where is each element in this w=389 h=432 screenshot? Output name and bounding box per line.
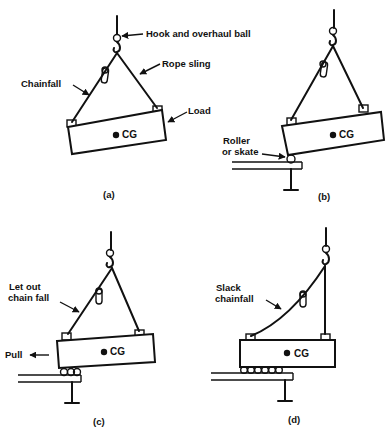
panel-d: CG Slack chainfall (d) xyxy=(211,228,335,425)
cg-label: CG xyxy=(294,348,309,359)
cg-marker-icon xyxy=(284,350,290,356)
cg-label: CG xyxy=(339,129,354,140)
pull-label: Pull xyxy=(5,349,22,360)
rope-sling-label: Rope sling xyxy=(162,58,211,69)
cg-label: CG xyxy=(122,129,137,140)
caption-d: (d) xyxy=(288,414,300,425)
slack-chainfall-line xyxy=(251,266,325,336)
overhaul-ball-icon xyxy=(330,28,337,35)
slack-label-line2: chainfall xyxy=(215,293,254,304)
rope-sling-line xyxy=(117,53,157,108)
hook-icon xyxy=(330,35,336,45)
cg-marker-icon xyxy=(330,132,336,138)
chainfall-label: Chainfall xyxy=(21,78,61,89)
caption-a: (a) xyxy=(103,189,115,200)
slack-label-line1: Slack xyxy=(216,282,242,293)
rigging-diagram: CG Hook and overhaul ball Rope sling Cha… xyxy=(0,0,389,432)
letout-label-line2: chain fall xyxy=(8,292,49,303)
overhaul-ball-icon xyxy=(114,35,121,42)
load-label: Load xyxy=(188,105,211,116)
hook-icon xyxy=(107,257,113,267)
hook-icon xyxy=(323,253,329,264)
caption-c: (c) xyxy=(93,416,105,427)
cg-label: CG xyxy=(110,346,125,357)
lift-lug-icon xyxy=(62,333,71,340)
rope-sling-line xyxy=(112,268,139,331)
cg-marker-icon xyxy=(113,132,119,138)
letout-label-line1: Let out xyxy=(9,281,41,292)
chainfall-line xyxy=(68,268,112,334)
overhaul-ball-icon xyxy=(107,250,114,257)
roller-label-line1: Roller xyxy=(223,135,250,146)
cg-marker-icon xyxy=(101,349,107,355)
chainfall-line xyxy=(291,46,333,120)
roller-label-line2: or skate xyxy=(222,146,258,157)
rope-sling-line xyxy=(333,46,363,108)
hook-label: Hook and overhaul ball xyxy=(146,28,251,39)
chainfall-line xyxy=(72,53,117,122)
panel-a: CG Hook and overhaul ball Rope sling Cha… xyxy=(21,16,251,200)
panel-c: CG Let out chain fall Pull (c) xyxy=(5,232,155,427)
hook-icon xyxy=(114,42,120,52)
caption-b: (b) xyxy=(318,191,330,202)
